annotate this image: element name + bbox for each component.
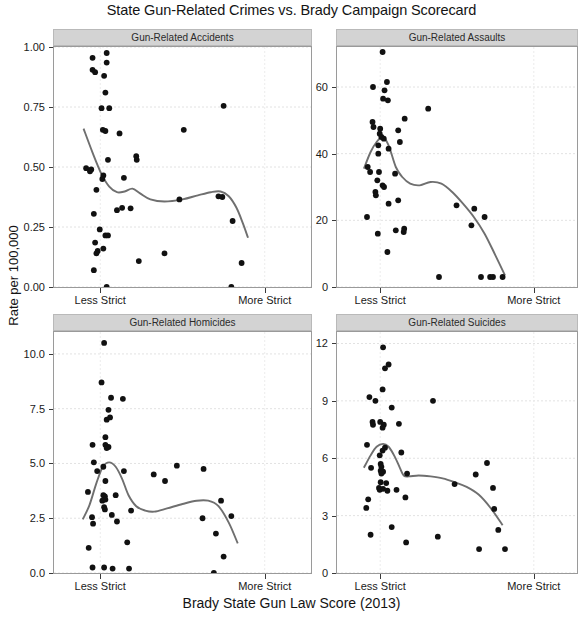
data-point: [106, 105, 112, 111]
y-axis-tick-label: 0: [280, 281, 328, 293]
data-point: [90, 442, 96, 448]
y-axis-tick-mark: [332, 401, 336, 402]
y-axis-tick-label: 9: [280, 395, 328, 407]
data-point: [221, 103, 227, 109]
data-point: [119, 205, 125, 211]
data-point: [482, 214, 488, 220]
data-point: [104, 60, 110, 66]
data-point: [363, 505, 369, 511]
data-point: [99, 498, 105, 504]
figure-canvas: State Gun-Related Crimes vs. Brady Campa…: [0, 0, 583, 618]
y-axis-tick-label: 3: [280, 510, 328, 522]
data-point: [484, 460, 490, 466]
data-point: [395, 127, 401, 133]
y-axis-tick-mark: [332, 458, 336, 459]
y-axis-tick-mark: [49, 409, 53, 410]
data-point: [120, 396, 126, 402]
data-point: [364, 214, 370, 220]
data-point: [367, 394, 373, 400]
plot-area: [336, 331, 578, 574]
panel-strip-title: Gun-Related Homicides: [53, 314, 312, 331]
y-axis-tick-mark: [332, 573, 336, 574]
x-axis-tick-mark: [534, 574, 535, 579]
data-point: [91, 211, 97, 217]
y-axis-tick-label: 40: [280, 148, 328, 160]
data-point: [101, 340, 107, 346]
data-point: [495, 527, 501, 533]
facet-panel-assaults: Gun-Related Assaults: [336, 29, 578, 288]
data-point: [478, 274, 484, 280]
data-point: [376, 169, 382, 175]
x-axis-tick-mark: [265, 288, 266, 293]
y-axis-tick-label: 0.0: [0, 567, 45, 579]
data-point: [452, 481, 458, 487]
data-point: [375, 142, 381, 148]
y-axis-tick-mark: [332, 87, 336, 88]
plot-area: [336, 46, 578, 288]
x-axis-tick-mark: [380, 288, 381, 293]
y-axis-tick-mark: [332, 220, 336, 221]
data-point: [393, 227, 399, 233]
data-point: [134, 157, 140, 163]
data-point: [105, 233, 111, 239]
data-point: [395, 197, 401, 203]
y-axis-tick-label: 0.50: [0, 161, 45, 173]
data-point: [87, 168, 93, 174]
data-point: [490, 485, 496, 491]
data-point: [102, 507, 108, 513]
x-axis-tick-label: More Strict: [238, 294, 291, 306]
data-point: [397, 139, 403, 145]
data-point: [404, 471, 410, 477]
x-axis-tick-label: Less Strict: [75, 580, 126, 592]
facet-panel-accidents: Gun-Related Accidents: [53, 29, 312, 288]
data-point: [100, 246, 106, 252]
data-point: [94, 468, 100, 474]
facet-panel-homicides: Gun-Related Homicides: [53, 314, 312, 574]
data-point: [201, 466, 207, 472]
data-point: [151, 472, 157, 478]
data-point: [113, 492, 119, 498]
data-point: [90, 565, 96, 571]
data-point: [97, 227, 103, 233]
data-point: [435, 534, 441, 540]
data-point: [109, 512, 115, 518]
data-point: [100, 464, 106, 470]
data-point: [403, 540, 409, 546]
x-axis-tick-label: Less Strict: [75, 294, 126, 306]
data-point: [375, 151, 381, 157]
data-point: [371, 124, 377, 130]
data-point: [385, 488, 391, 494]
data-point: [373, 398, 379, 404]
data-point: [398, 450, 404, 456]
data-point: [384, 79, 390, 85]
y-axis-tick-mark: [49, 354, 53, 355]
data-point: [382, 365, 388, 371]
data-point: [121, 468, 127, 474]
data-point: [379, 471, 385, 477]
data-point: [107, 415, 113, 421]
x-axis-tick-label: More Strict: [507, 294, 560, 306]
y-axis-tick-mark: [49, 47, 53, 48]
y-axis-tick-label: 0.00: [0, 281, 45, 293]
data-point: [380, 425, 386, 431]
data-point: [476, 546, 482, 552]
data-point: [370, 84, 376, 90]
data-point: [392, 171, 398, 177]
data-point: [365, 164, 371, 170]
data-point: [126, 566, 132, 572]
data-point: [469, 222, 475, 228]
data-point: [106, 407, 112, 413]
data-point: [502, 546, 508, 552]
data-point: [85, 489, 91, 495]
x-axis-tick-mark: [265, 574, 266, 579]
data-point: [86, 545, 92, 551]
data-point: [378, 479, 384, 485]
data-point: [401, 226, 407, 232]
data-point: [174, 463, 180, 469]
y-axis-tick-label: 7.5: [0, 403, 45, 415]
data-point: [128, 508, 134, 514]
data-point: [454, 202, 460, 208]
data-point: [105, 157, 111, 163]
y-axis-tick-mark: [49, 227, 53, 228]
data-point: [128, 205, 134, 211]
